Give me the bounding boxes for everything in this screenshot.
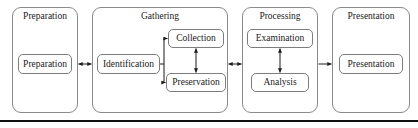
group-preparation-title: Preparation [13,11,77,22]
node-collection: Collection [168,29,224,48]
bottom-divider [0,120,418,122]
node-preparation: Preparation [18,54,72,74]
node-analysis-label: Analysis [263,77,296,88]
node-preparation-label: Preparation [23,59,67,70]
node-examination: Examination [247,29,313,48]
node-preservation: Preservation [166,73,226,92]
node-examination-label: Examination [256,33,305,44]
node-collection-label: Collection [176,33,216,44]
process-model-diagram: Preparation Preparation Gathering Identi… [0,0,418,128]
node-analysis: Analysis [251,73,309,92]
group-processing: Processing [242,7,318,113]
node-preservation-label: Preservation [172,77,220,88]
node-identification: Identification [97,54,160,74]
node-identification-label: Identification [103,59,154,70]
node-presentation-label: Presentation [348,59,395,70]
node-presentation: Presentation [339,54,403,74]
group-processing-title: Processing [243,11,317,22]
group-presentation-title: Presentation [333,11,409,22]
group-gathering-title: Gathering [93,11,227,22]
